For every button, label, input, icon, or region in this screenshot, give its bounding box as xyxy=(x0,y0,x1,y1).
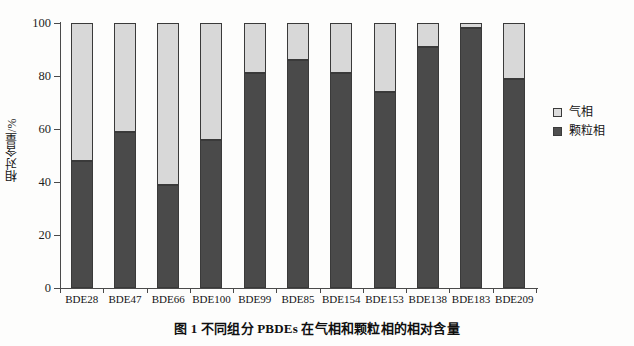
bar-segment-gas-phase xyxy=(503,23,525,79)
x-axis-label: BDE66 xyxy=(147,294,190,305)
bar-group xyxy=(287,23,309,288)
bar-segment-particle-phase xyxy=(460,28,482,288)
bar-group xyxy=(503,23,525,288)
x-axis-tick xyxy=(320,288,321,293)
x-axis-label: BDE153 xyxy=(363,294,406,305)
x-axis-tick xyxy=(276,288,277,293)
bar-group xyxy=(374,23,396,288)
x-axis-label: BDE28 xyxy=(60,294,103,305)
y-axis-tick xyxy=(54,182,60,183)
x-axis-tick xyxy=(449,288,450,293)
y-axis-tick xyxy=(54,76,60,77)
bar-segment-particle-phase xyxy=(157,185,179,288)
bar-segment-particle-phase xyxy=(503,79,525,288)
x-axis-label: BDE100 xyxy=(190,294,233,305)
bar-segment-gas-phase xyxy=(200,23,222,140)
plot-area: 020406080100 xyxy=(60,23,536,288)
bar-group xyxy=(417,23,439,288)
x-axis-tick xyxy=(406,288,407,293)
x-axis-label: BDE138 xyxy=(406,294,449,305)
x-axis-tick xyxy=(60,288,61,293)
x-axis-tick xyxy=(190,288,191,293)
y-axis-tick xyxy=(54,235,60,236)
bar-segment-gas-phase xyxy=(244,23,266,73)
bar-group xyxy=(244,23,266,288)
y-axis-tick xyxy=(54,23,60,24)
bar-segment-gas-phase xyxy=(114,23,136,132)
bar-segment-particle-phase xyxy=(330,73,352,288)
bar-segment-gas-phase xyxy=(374,23,396,92)
x-axis-tick xyxy=(363,288,364,293)
x-axis-tick xyxy=(233,288,234,293)
legend-swatch-gas xyxy=(553,108,562,117)
bar-segment-particle-phase xyxy=(287,60,309,288)
chart-legend: 气相颗粒相 xyxy=(553,106,605,144)
bar-segment-particle-phase xyxy=(374,92,396,288)
x-axis-label: BDE47 xyxy=(103,294,146,305)
x-axis-label: BDE183 xyxy=(449,294,492,305)
bar-group xyxy=(460,23,482,288)
x-axis-tick xyxy=(536,288,537,293)
x-axis-label: BDE209 xyxy=(493,294,536,305)
bar-segment-particle-phase xyxy=(417,47,439,288)
y-axis-tick-label: 60 xyxy=(39,123,52,136)
bar-segment-particle-phase xyxy=(114,132,136,288)
bar-segment-particle-phase xyxy=(200,140,222,288)
bar-segment-gas-phase xyxy=(157,23,179,185)
legend-item[interactable]: 颗粒相 xyxy=(553,125,605,137)
bar-segment-gas-phase xyxy=(287,23,309,60)
bar-segment-particle-phase xyxy=(244,73,266,288)
legend-item[interactable]: 气相 xyxy=(553,106,605,118)
y-axis-title: 相对含量/% xyxy=(6,118,18,182)
bar-group xyxy=(200,23,222,288)
y-axis-tick-label: 0 xyxy=(45,282,51,295)
bar-group xyxy=(330,23,352,288)
legend-label: 颗粒相 xyxy=(569,125,605,137)
y-axis-tick-label: 40 xyxy=(39,176,52,189)
x-axis-label: BDE154 xyxy=(320,294,363,305)
x-axis-label: BDE99 xyxy=(233,294,276,305)
bar-segment-gas-phase xyxy=(330,23,352,73)
legend-swatch-particle xyxy=(553,127,562,136)
bar-group xyxy=(114,23,136,288)
legend-label: 气相 xyxy=(569,106,593,118)
x-axis-tick xyxy=(493,288,494,293)
figure-caption: 图 1 不同组分 PBDEs 在气相和颗粒相的相对含量 xyxy=(0,318,634,337)
y-axis-tick xyxy=(54,129,60,130)
x-axis-label: BDE85 xyxy=(276,294,319,305)
x-axis-tick xyxy=(147,288,148,293)
y-axis-tick-label: 100 xyxy=(32,17,51,30)
bar-group xyxy=(71,23,93,288)
y-axis-tick-label: 80 xyxy=(39,70,52,83)
bar-segment-gas-phase xyxy=(417,23,439,47)
x-axis-tick xyxy=(103,288,104,293)
y-axis-tick-label: 20 xyxy=(39,229,52,242)
figure-container: 相对含量/% 020406080100 BDE28BDE47BDE66BDE10… xyxy=(0,0,634,346)
bar-group xyxy=(157,23,179,288)
x-axis-line xyxy=(60,288,538,289)
bar-segment-particle-phase xyxy=(71,161,93,288)
bar-segment-gas-phase xyxy=(71,23,93,161)
